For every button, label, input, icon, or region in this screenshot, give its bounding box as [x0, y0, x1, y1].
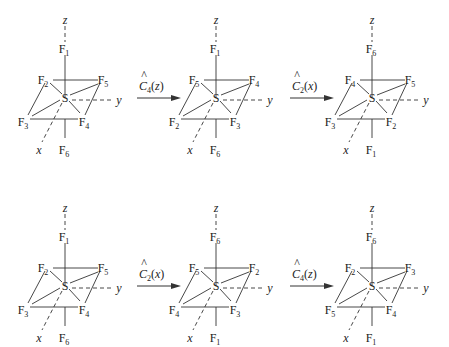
- fluorine-bottom-left: F2: [169, 115, 180, 131]
- bond-s-tl: [50, 271, 62, 282]
- x-axis-label: x: [186, 331, 193, 345]
- bond-s-bl: [339, 288, 367, 304]
- arrow-head-icon: [324, 283, 334, 289]
- sf6-molecule: zyxSF1F2F5F3F4F6: [18, 13, 123, 159]
- sulfur-atom-label: S: [213, 279, 220, 293]
- bond-s-tr: [377, 272, 405, 283]
- fluorine-axial-top: F1: [210, 42, 221, 58]
- fluorine-top-left: F5: [189, 73, 200, 89]
- fluorine-top-right: F5: [98, 261, 109, 277]
- x-axis-label: x: [342, 143, 349, 157]
- sulfur-atom-label: S: [62, 279, 69, 293]
- bond-s-bl: [32, 288, 60, 304]
- fluorine-top-left: F2: [38, 73, 49, 89]
- fluorine-bottom-right: F4: [386, 303, 397, 319]
- fluorine-axial-top: F1: [59, 42, 70, 58]
- bond-s-tr: [221, 272, 249, 283]
- fluorine-top-left: F4: [345, 73, 356, 89]
- sulfur-atom-label: S: [213, 91, 220, 105]
- arrow-head-icon: [171, 95, 181, 101]
- operation-arrow: ^C2(x): [290, 68, 334, 101]
- fluorine-top-right: F4: [249, 73, 260, 89]
- bond-s-tr: [221, 84, 249, 95]
- z-axis-label: z: [369, 13, 375, 27]
- symmetry-diagram: zyxSF1F2F5F3F4F6zyxSF1F5F4F2F3F6zyxSF6F4…: [0, 0, 449, 347]
- operation-arrow: ^C4(z): [137, 68, 181, 101]
- fluorine-bottom-left: F3: [18, 115, 29, 131]
- bond-s-br: [220, 289, 231, 301]
- fluorine-bottom-right: F3: [230, 303, 241, 319]
- fluorine-bottom-right: F3: [230, 115, 241, 131]
- bond-s-tl: [50, 83, 62, 94]
- bond-s-br: [69, 289, 80, 301]
- bond-s-br: [220, 101, 231, 113]
- bond-s-tr: [70, 272, 98, 283]
- z-axis-label: z: [369, 201, 375, 215]
- bond-s-br: [69, 101, 80, 113]
- sulfur-atom-label: S: [369, 91, 376, 105]
- fluorine-bottom-right: F2: [386, 115, 397, 131]
- bond-s-bl: [183, 288, 211, 304]
- fluorine-bottom-right: F4: [79, 303, 90, 319]
- operation-arrow: ^C2(x): [137, 256, 181, 289]
- fluorine-top-left: F5: [189, 261, 200, 277]
- operator-label: C2(x): [139, 267, 164, 283]
- sulfur-atom-label: S: [62, 91, 69, 105]
- z-axis-label: z: [62, 201, 68, 215]
- fluorine-axial-top: F6: [210, 230, 221, 246]
- sf6-molecule: zyxSF6F5F2F4F3F1: [169, 201, 274, 347]
- bond-s-tl: [201, 83, 213, 94]
- sf6-molecule: zyxSF1F5F4F2F3F6: [169, 13, 274, 159]
- fluorine-axial-bottom: F6: [210, 143, 221, 159]
- bond-s-br: [376, 289, 387, 301]
- y-axis-label: y: [115, 281, 122, 295]
- z-axis-label: z: [213, 13, 219, 27]
- operator-label: C2(x): [292, 79, 317, 95]
- fluorine-bottom-left: F4: [169, 303, 180, 319]
- fluorine-top-right: F3: [405, 261, 416, 277]
- bond-s-tl: [357, 83, 369, 94]
- fluorine-bottom-left: F5: [325, 303, 336, 319]
- fluorine-top-left: F2: [38, 261, 49, 277]
- x-axis-label: x: [342, 331, 349, 345]
- sulfur-atom-label: S: [369, 279, 376, 293]
- operator-label: C4(z): [139, 79, 164, 95]
- bond-s-bl: [32, 100, 60, 116]
- fluorine-axial-top: F1: [59, 230, 70, 246]
- fluorine-axial-top: F6: [366, 42, 377, 58]
- bond-s-tr: [70, 84, 98, 95]
- operator-label: C4(z): [292, 267, 317, 283]
- fluorine-axial-top: F6: [366, 230, 377, 246]
- bond-s-br: [376, 101, 387, 113]
- y-axis-label: y: [266, 281, 273, 295]
- fluorine-top-right: F5: [98, 73, 109, 89]
- fluorine-top-right: F5: [405, 73, 416, 89]
- arrow-head-icon: [171, 283, 181, 289]
- sf6-molecule: zyxSF6F4F5F3F2F1: [325, 13, 430, 159]
- fluorine-axial-bottom: F6: [59, 331, 70, 347]
- z-axis-label: z: [213, 201, 219, 215]
- fluorine-bottom-left: F3: [325, 115, 336, 131]
- bond-s-tr: [377, 84, 405, 95]
- fluorine-axial-bottom: F1: [366, 331, 377, 347]
- fluorine-top-right: F2: [249, 261, 260, 277]
- y-axis-label: y: [115, 93, 122, 107]
- arrow-head-icon: [324, 95, 334, 101]
- x-axis-label: x: [35, 331, 42, 345]
- y-axis-label: y: [266, 93, 273, 107]
- bond-s-bl: [339, 100, 367, 116]
- y-axis-label: y: [422, 281, 429, 295]
- fluorine-bottom-right: F4: [79, 115, 90, 131]
- fluorine-axial-bottom: F1: [210, 331, 221, 347]
- sf6-molecule: zyxSF1F2F5F3F4F6: [18, 201, 123, 347]
- fluorine-axial-bottom: F1: [366, 143, 377, 159]
- bond-s-tl: [201, 271, 213, 282]
- sf6-molecule: zyxSF6F2F3F5F4F1: [325, 201, 430, 347]
- x-axis-label: x: [186, 143, 193, 157]
- fluorine-bottom-left: F3: [18, 303, 29, 319]
- fluorine-top-left: F2: [345, 261, 356, 277]
- z-axis-label: z: [62, 13, 68, 27]
- x-axis-label: x: [35, 143, 42, 157]
- bond-s-tl: [357, 271, 369, 282]
- fluorine-axial-bottom: F6: [59, 143, 70, 159]
